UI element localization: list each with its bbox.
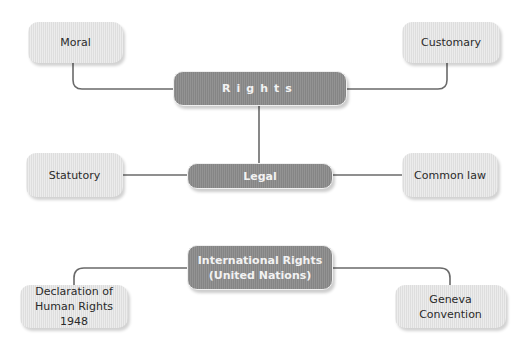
geneva-node: Geneva Convention [395, 285, 506, 328]
moral-label: Moral [60, 35, 91, 50]
declaration-label-line1: Declaration of [35, 284, 113, 299]
moral-node: Moral [28, 22, 123, 63]
common-law-label: Common law [414, 168, 486, 183]
common-law-node: Common law [402, 153, 498, 197]
international-rights-node: International Rights (United Nations) [187, 245, 333, 290]
statutory-node: Statutory [26, 153, 123, 197]
statutory-label: Statutory [49, 168, 100, 183]
legal-label: Legal [243, 169, 277, 184]
rights-label: Rights [222, 81, 298, 96]
connector-customary-rights [346, 63, 447, 89]
rights-root-node: Rights [173, 71, 347, 106]
legal-node: Legal [187, 163, 333, 189]
connector-moral-rights [73, 63, 174, 89]
international-label-line1: International Rights [198, 253, 323, 268]
declaration-node: Declaration of Human Rights 1948 [20, 285, 128, 328]
international-label-line2: (United Nations) [209, 268, 312, 283]
geneva-label-line1: Geneva [429, 292, 471, 307]
declaration-label-line2: Human Rights 1948 [20, 299, 128, 329]
connector-international-geneva [332, 268, 450, 285]
geneva-label-line2: Convention [419, 307, 482, 322]
customary-node: Customary [402, 22, 500, 63]
customary-label: Customary [421, 35, 481, 50]
connector-international-declaration [74, 268, 188, 285]
